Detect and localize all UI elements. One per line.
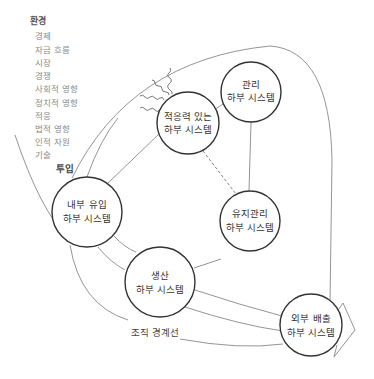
node-boundary-out-line2: 하부 시스템 <box>287 327 335 338</box>
node-production-line1: 생산 <box>151 270 169 281</box>
flow-production-out-2 <box>185 307 283 331</box>
wavy-line-1 <box>168 68 173 94</box>
wavy-line-4 <box>140 107 160 111</box>
node-boundary-out-line1: 외부 배출 <box>291 313 330 324</box>
env-item: 사회적 영향 <box>35 84 78 94</box>
node-boundary-in-line2: 하부 시스템 <box>63 213 111 224</box>
input-label: 투입 <box>56 163 74 174</box>
boundary-bottom-line <box>180 339 283 346</box>
boundary-outer-arc <box>72 46 332 303</box>
environment-title: 환경 <box>30 15 46 26</box>
node-production-line2: 하부 시스템 <box>136 284 184 295</box>
node-adaptive: 적응력 있는 하부 시스템 <box>157 92 219 154</box>
node-management: 관리 하부 시스템 <box>221 62 281 122</box>
env-item: 경쟁 <box>35 71 51 81</box>
boundary-label: 조직 경계선 <box>131 327 179 338</box>
node-adaptive-line1: 적응력 있는 <box>164 111 212 122</box>
env-item: 시장 <box>35 58 51 68</box>
boundary-bottom-arc <box>70 245 128 320</box>
org-system-diagram: 환경 경제 자금 흐름 시장 경쟁 사회적 영향 정치적 영향 적응 법적 영향… <box>0 0 374 379</box>
connector-management-maintenance <box>249 122 251 191</box>
node-management-line2: 하부 시스템 <box>227 92 275 103</box>
node-maintenance-line2: 하부 시스템 <box>226 222 274 233</box>
input-line <box>87 118 118 177</box>
node-management-line1: 관리 <box>242 79 260 90</box>
node-production: 생산 하부 시스템 <box>125 247 195 317</box>
wavy-line-2 <box>152 80 169 95</box>
env-item: 법적 영향 <box>35 124 70 134</box>
connector-in-adaptive <box>108 134 159 183</box>
node-adaptive-line2: 하부 시스템 <box>164 124 212 135</box>
node-boundary-in-line1: 내부 유입 <box>67 199 106 210</box>
flow-in-production-1 <box>114 236 136 252</box>
node-boundary-out: 외부 배출 하부 시스템 <box>280 294 342 356</box>
wavy-line-3 <box>140 95 164 100</box>
env-item: 인적 자원 <box>35 137 70 147</box>
env-item: 적응 <box>35 111 51 121</box>
flow-production-out-1 <box>195 290 282 316</box>
flow-in-production-2 <box>98 247 125 270</box>
connector-production-maintenance <box>194 259 221 268</box>
env-item: 경제 <box>35 31 51 41</box>
node-maintenance-line1: 유지관리 <box>232 208 268 219</box>
node-boundary-in: 내부 유입 하부 시스템 <box>52 177 122 247</box>
connector-adaptive-maintenance-dashed <box>203 151 236 194</box>
env-item: 자금 흐름 <box>35 45 70 55</box>
env-item: 정치적 영향 <box>35 98 78 108</box>
node-maintenance: 유지관리 하부 시스템 <box>220 191 280 251</box>
env-item: 기술 <box>35 150 51 160</box>
